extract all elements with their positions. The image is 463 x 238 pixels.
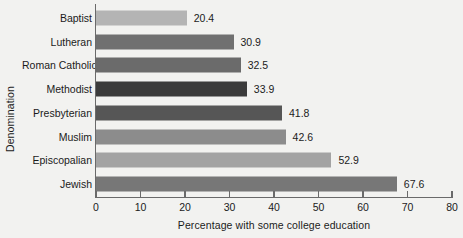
x-tick-label: 20 — [179, 201, 191, 213]
category-label-roman-catholic: Roman Catholic — [22, 60, 92, 71]
x-tick-mark — [318, 191, 319, 198]
category-label-jewish: Jewish — [22, 179, 92, 190]
category-label-episcopalian: Episcopalian — [22, 155, 92, 166]
category-label-lutheran: Lutheran — [22, 36, 92, 47]
y-axis-title: Denomination — [0, 0, 20, 238]
bar — [96, 105, 282, 120]
bar-value-label: 52.9 — [338, 155, 358, 166]
bar-chart: Denomination BaptistLutheranRoman Cathol… — [0, 0, 463, 238]
x-tick-mark — [451, 191, 452, 198]
x-tick-mark — [140, 191, 141, 198]
x-tick-label: 60 — [357, 201, 369, 213]
bar — [96, 82, 247, 97]
bar-value-label: 67.6 — [404, 179, 424, 190]
bar — [96, 10, 187, 25]
x-tick-label: 0 — [93, 201, 99, 213]
category-label-muslim: Muslim — [22, 131, 92, 142]
bar-value-label: 30.9 — [241, 36, 261, 47]
x-tick-mark — [273, 191, 274, 198]
x-tick-mark — [95, 191, 96, 198]
bar-value-label: 41.8 — [289, 107, 309, 118]
bar-value-label: 42.6 — [293, 131, 313, 142]
x-tick-label: 70 — [402, 201, 414, 213]
bar — [96, 177, 397, 192]
x-tick-mark — [362, 191, 363, 198]
bar-value-label: 32.5 — [248, 60, 268, 71]
category-axis: BaptistLutheranRoman CatholicMethodistPr… — [22, 6, 92, 196]
bar-value-label: 20.4 — [194, 12, 214, 23]
category-label-methodist: Methodist — [22, 84, 92, 95]
x-axis-title: Percentage with some college education — [96, 219, 452, 231]
x-tick-mark — [229, 191, 230, 198]
plot-area: 20.430.932.533.941.842.652.967.6 — [96, 6, 452, 196]
x-tick-label: 40 — [268, 201, 280, 213]
bar — [96, 153, 331, 168]
bar-value-label: 33.9 — [254, 84, 274, 95]
x-tick-mark — [184, 191, 185, 198]
bar — [96, 58, 241, 73]
x-tick-label: 50 — [313, 201, 325, 213]
y-axis-line — [95, 4, 96, 198]
bar — [96, 129, 286, 144]
category-label-presbyterian: Presbyterian — [22, 107, 92, 118]
category-label-baptist: Baptist — [22, 12, 92, 23]
bar — [96, 34, 234, 49]
x-tick-label: 30 — [224, 201, 236, 213]
x-tick-label: 10 — [135, 201, 147, 213]
x-tick-label: 80 — [446, 201, 458, 213]
x-tick-mark — [407, 191, 408, 198]
